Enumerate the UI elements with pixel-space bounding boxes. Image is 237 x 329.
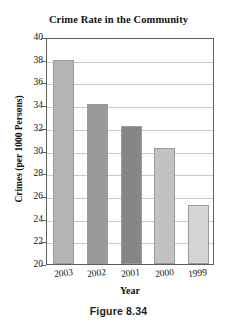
- bar: [121, 126, 142, 264]
- bar: [188, 205, 209, 264]
- plot-area: [46, 38, 214, 265]
- x-tick-label: 2002: [79, 266, 114, 279]
- y-tick-label: 32: [9, 124, 43, 134]
- y-tick-label: 22: [9, 237, 43, 247]
- x-tick-label: 2001: [113, 266, 148, 279]
- y-tick-label: 38: [9, 56, 43, 66]
- y-tick-label: 24: [9, 215, 43, 225]
- figure-root: Crime Rate in the Community Crimes (per …: [0, 0, 237, 329]
- figure-caption: Figure 8.34: [0, 305, 237, 317]
- y-tick-label: 40: [9, 33, 43, 43]
- x-tick-label: 2003: [46, 266, 81, 279]
- x-axis-title: Year: [46, 285, 214, 296]
- x-tick-label: 1999: [180, 266, 215, 279]
- y-tick-label: 26: [9, 192, 43, 202]
- y-tick-mark: [41, 265, 46, 266]
- x-tick-label: 2000: [147, 266, 182, 279]
- y-tick-label: 28: [9, 169, 43, 179]
- bar: [87, 104, 108, 264]
- y-tick-label: 20: [9, 260, 43, 270]
- bar: [154, 148, 175, 264]
- chart-title: Crime Rate in the Community: [0, 14, 237, 25]
- y-tick-label: 30: [9, 147, 43, 157]
- y-tick-label: 36: [9, 78, 43, 88]
- bar: [53, 60, 74, 264]
- y-tick-label: 34: [9, 101, 43, 111]
